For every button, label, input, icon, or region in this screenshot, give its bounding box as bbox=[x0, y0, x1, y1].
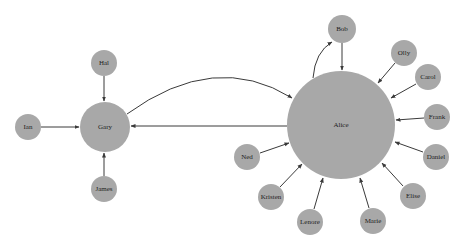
node-label: Alice bbox=[333, 121, 348, 129]
node-olly[interactable]: Olly bbox=[391, 40, 417, 66]
node-label: Olly bbox=[398, 49, 411, 57]
edge-kristen-alice bbox=[280, 164, 302, 187]
edge-ned-alice bbox=[260, 143, 289, 153]
node-james[interactable]: James bbox=[91, 176, 117, 202]
node-label: Gary bbox=[98, 123, 112, 131]
node-bob[interactable]: Bob bbox=[328, 15, 356, 43]
node-kristen[interactable]: Kristen bbox=[258, 184, 284, 210]
node-frank[interactable]: Frank bbox=[424, 104, 450, 130]
node-alice[interactable]: Alice bbox=[287, 71, 395, 179]
node-ned[interactable]: Ned bbox=[234, 144, 260, 170]
node-label: James bbox=[95, 185, 112, 193]
edge-gary-alice-curve bbox=[127, 77, 292, 114]
node-label: Kristen bbox=[261, 193, 282, 201]
node-label: Carol bbox=[420, 73, 436, 81]
node-lenore[interactable]: Lenore bbox=[297, 209, 323, 235]
node-ian[interactable]: Ian bbox=[15, 114, 41, 140]
node-hal[interactable]: Hal bbox=[91, 50, 117, 76]
node-marie[interactable]: Marie bbox=[360, 208, 386, 234]
edge-elise-alice bbox=[382, 163, 403, 186]
edge-marie-alice bbox=[360, 178, 369, 208]
edge-lenore-alice bbox=[314, 178, 323, 209]
graph-canvas: Alice Gary Hal Ian James Bob Olly Carol … bbox=[0, 0, 463, 249]
node-elise[interactable]: Elise bbox=[400, 183, 426, 209]
node-gary[interactable]: Gary bbox=[80, 102, 130, 152]
node-label: Daniel bbox=[427, 153, 446, 161]
node-daniel[interactable]: Daniel bbox=[423, 144, 449, 170]
node-label: Elise bbox=[406, 192, 420, 200]
node-label: Hal bbox=[99, 59, 109, 67]
edge-carol-alice bbox=[391, 84, 416, 98]
edge-olly-alice bbox=[378, 63, 395, 83]
edge-frank-alice bbox=[396, 118, 424, 120]
node-label: Marie bbox=[365, 217, 382, 225]
node-label: Frank bbox=[429, 113, 446, 121]
edge-daniel-alice bbox=[395, 142, 423, 152]
node-label: Bob bbox=[336, 25, 348, 33]
node-label: Lenore bbox=[300, 218, 320, 226]
node-carol[interactable]: Carol bbox=[415, 64, 441, 90]
node-label: Ian bbox=[24, 123, 33, 131]
node-label: Ned bbox=[241, 153, 253, 161]
